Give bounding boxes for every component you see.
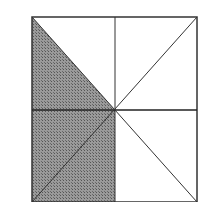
geometry-figure <box>0 0 203 202</box>
